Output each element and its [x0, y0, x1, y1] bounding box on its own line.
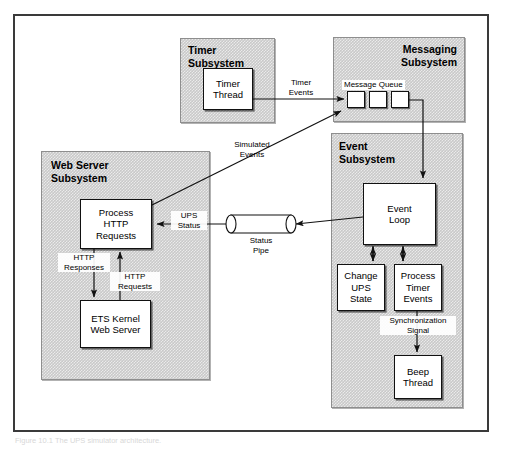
message-queue-cell-3[interactable]: [391, 91, 409, 108]
subsystem-webserver-title: Web Server Subsystem: [51, 159, 109, 184]
message-queue-cell-1[interactable]: [347, 91, 365, 108]
figure-root: Timer Subsystem Messaging Subsystem Even…: [0, 0, 505, 450]
subsystem-event-title: Event Subsystem: [339, 140, 395, 165]
box-beep-thread[interactable]: Beep Thread: [394, 355, 442, 399]
label-simulated-events: Simulated Events: [224, 140, 280, 159]
box-process-http-requests[interactable]: Process HTTP Requests: [80, 199, 152, 249]
label-timer-events: Timer Events: [279, 78, 323, 97]
figure-caption: Figure 10.1 The UPS simulator architectu…: [15, 436, 161, 445]
box-ets-kernel-web-server[interactable]: ETS Kernel Web Server: [80, 300, 151, 348]
message-queue-cell-2[interactable]: [369, 91, 387, 108]
label-ups-status: UPS Status: [171, 211, 207, 230]
label-http-responses: HTTP Responses: [58, 253, 110, 272]
label-http-requests: HTTP Requests: [110, 272, 160, 291]
label-status-pipe: Status Pipe: [238, 236, 284, 255]
box-change-ups-state[interactable]: Change UPS State: [337, 264, 385, 311]
box-process-timer-events[interactable]: Process Timer Events: [394, 264, 442, 311]
subsystem-messaging-title: Messaging Subsystem: [401, 43, 457, 68]
box-event-loop[interactable]: Event Loop: [363, 183, 436, 245]
box-timer-thread[interactable]: Timer Thread: [203, 68, 253, 110]
subsystem-timer-title: Timer Subsystem: [188, 44, 244, 69]
label-synchronization-signal: Synchronization Signal: [380, 316, 456, 335]
message-queue-caption: Message Queue: [342, 80, 405, 90]
